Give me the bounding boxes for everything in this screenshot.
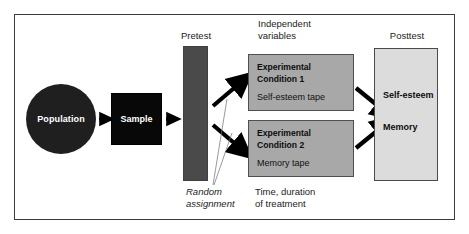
posttest-entry-memory: Memory: [383, 122, 418, 132]
condition-2-title: Experimental Condition 2: [257, 128, 353, 151]
posttest-entry-self-esteem: Self-esteem: [383, 90, 434, 100]
node-experimental-condition-2[interactable]: Experimental Condition 2 Memory tape: [248, 120, 354, 177]
node-posttest[interactable]: Self-esteem Memory: [374, 48, 438, 181]
label-posttest: Posttest: [378, 30, 436, 42]
annotation-random-assignment: Random assignment: [186, 186, 248, 209]
condition-1-treatment: Self-esteem tape: [257, 92, 353, 103]
condition-2-treatment: Memory tape: [257, 158, 353, 169]
experimental-design-figure: Population Sample Pretest Independent va…: [0, 0, 469, 234]
node-sample-label: Sample: [120, 114, 152, 124]
node-pretest-bar[interactable]: [183, 46, 208, 181]
node-population-label: Population: [37, 114, 85, 124]
condition-1-title: Experimental Condition 1: [257, 62, 353, 85]
node-population[interactable]: Population: [26, 84, 96, 154]
node-experimental-condition-1[interactable]: Experimental Condition 1 Self-esteem tap…: [248, 54, 354, 111]
annotation-time-duration: Time, duration of treatment: [255, 186, 347, 209]
label-independent-variables: Independent variables: [258, 18, 346, 41]
label-pretest: Pretest: [168, 30, 224, 42]
node-sample[interactable]: Sample: [111, 93, 162, 145]
